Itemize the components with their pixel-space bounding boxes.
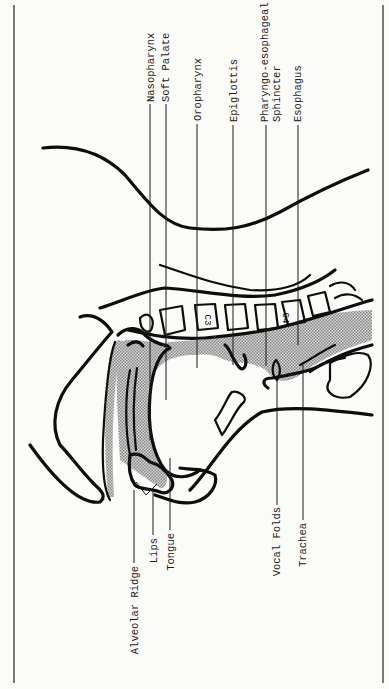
top-leader-lines xyxy=(150,104,298,440)
vertebra-label-c3: C3 xyxy=(202,315,212,326)
label-epiglottis: Epiglottis xyxy=(228,59,240,122)
tongue-base-outline xyxy=(149,348,200,477)
label-trachea: Trachea xyxy=(297,523,309,567)
label-esophagus: Esophagus xyxy=(292,65,304,122)
label-soft-palate: Soft Palate xyxy=(160,33,172,102)
neck-back-outline xyxy=(43,147,368,229)
spinal-cord-outline xyxy=(160,265,310,290)
vertebra-label-c4: C4 xyxy=(280,313,290,324)
label-pharyngo-esophageal: Pharyngo-esophageal xyxy=(259,2,271,122)
label-alveolar-ridge: Alveolar Ridge xyxy=(129,566,141,654)
anatomy-diagram: C3 C4 Nasopharynx Soft Palate Oropharynx… xyxy=(0,0,389,689)
label-lips: Lips xyxy=(148,538,160,563)
label-tongue: Tongue xyxy=(165,533,177,571)
label-vocal-folds: Vocal Folds xyxy=(271,507,283,576)
neck-front-outline xyxy=(190,409,372,490)
label-sphincter: Sphincter xyxy=(271,65,283,122)
label-oropharynx: Oropharynx xyxy=(192,58,204,121)
face-profile-outline xyxy=(30,316,112,503)
label-nasopharynx: Nasopharynx xyxy=(145,33,157,102)
